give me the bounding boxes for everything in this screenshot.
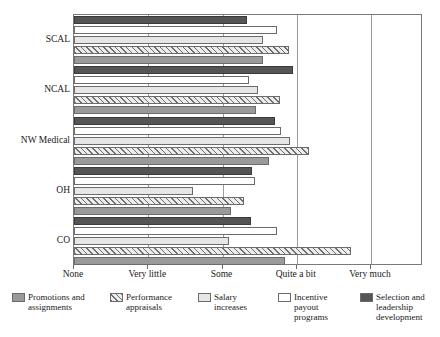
x-axis-label: Some (211, 268, 233, 280)
y-axis-label: NW Medical (2, 135, 70, 145)
bar-row (74, 157, 423, 165)
bar-row (74, 227, 423, 235)
bar-row (74, 177, 423, 185)
bar (74, 247, 351, 255)
legend-swatch-selection (360, 293, 373, 302)
bar-row (74, 187, 423, 195)
y-axis-label: SCAL (2, 34, 70, 44)
bar-group (74, 66, 421, 114)
bar-row (74, 86, 423, 94)
bar (74, 157, 269, 165)
bar (74, 197, 244, 205)
bar (74, 16, 247, 24)
legend-swatch-appraisals (110, 293, 123, 302)
bar (74, 56, 263, 64)
bar-group (74, 117, 421, 165)
bar (74, 227, 277, 235)
y-axis-label: NCAL (2, 84, 70, 94)
bar (74, 127, 281, 135)
legend-item[interactable]: Performance appraisals (110, 292, 172, 312)
legend-label: Performance appraisals (126, 292, 172, 312)
bar (74, 137, 290, 145)
bar-group (74, 16, 421, 64)
x-axis-label: None (63, 268, 84, 280)
y-axis-labels: SCALNCALNW MedicalOHCO (0, 14, 70, 265)
bar-row (74, 137, 423, 145)
bar-chart: SCALNCALNW MedicalOHCO NoneVery littleSo… (0, 0, 440, 337)
bar (74, 86, 258, 94)
bar-row (74, 217, 423, 225)
bar-row (74, 147, 423, 155)
bar (74, 117, 275, 125)
bar (74, 207, 231, 215)
bar (74, 36, 263, 44)
y-axis-label: CO (2, 235, 70, 245)
bar-row (74, 106, 423, 114)
bar-row (74, 36, 423, 44)
x-axis-label: Very little (128, 268, 166, 280)
y-axis-label: OH (2, 185, 70, 195)
bar (74, 257, 285, 265)
bar-row (74, 257, 423, 265)
legend-label: Promotions and assignments (28, 292, 85, 312)
bar (74, 46, 289, 54)
bar-row (74, 76, 423, 84)
bar (74, 167, 252, 175)
bar-group (74, 217, 421, 265)
bar-row (74, 26, 423, 34)
x-axis-label: Quite a bit (276, 268, 316, 280)
legend-swatch-salary (198, 293, 211, 302)
legend-item[interactable]: Promotions and assignments (12, 292, 85, 312)
legend-item[interactable]: Incentive payout programs (278, 292, 328, 322)
x-axis-labels: NoneVery littleSomeQuite a bitVery much (73, 268, 422, 282)
bar-row (74, 96, 423, 104)
chart-legend: Promotions and assignmentsPerformance ap… (12, 292, 436, 336)
legend-item[interactable]: Salary increases (198, 292, 247, 312)
bar-row (74, 237, 423, 245)
legend-label: Selection and leadership development (376, 292, 425, 322)
bar (74, 76, 249, 84)
bar-row (74, 127, 423, 135)
legend-swatch-promotions (12, 293, 25, 302)
bar (74, 147, 309, 155)
plot-area (73, 14, 422, 265)
bar-row (74, 247, 423, 255)
bar (74, 66, 293, 74)
bar-row (74, 197, 423, 205)
bar (74, 187, 193, 195)
bar-row (74, 66, 423, 74)
bar (74, 106, 256, 114)
bar-row (74, 16, 423, 24)
bars-layer (74, 15, 421, 264)
legend-item[interactable]: Selection and leadership development (360, 292, 425, 322)
bar (74, 177, 255, 185)
bar-row (74, 207, 423, 215)
legend-swatch-incentive (278, 293, 291, 302)
bar (74, 96, 280, 104)
bar-row (74, 167, 423, 175)
bar (74, 217, 251, 225)
bar-row (74, 117, 423, 125)
bar-row (74, 46, 423, 54)
x-axis-label: Very much (349, 268, 390, 280)
bar (74, 237, 229, 245)
bar-row (74, 56, 423, 64)
bar (74, 26, 277, 34)
bar-group (74, 167, 421, 215)
legend-label: Incentive payout programs (294, 292, 328, 322)
legend-label: Salary increases (214, 292, 247, 312)
